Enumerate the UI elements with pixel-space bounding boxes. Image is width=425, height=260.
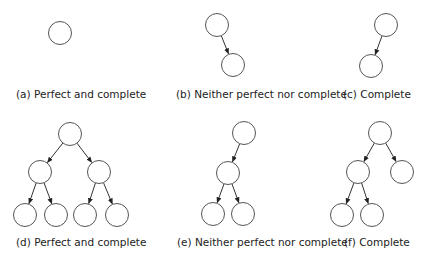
- edge-arrow: [364, 143, 374, 162]
- tree-node: [360, 55, 383, 78]
- tree-node: [74, 204, 97, 227]
- edge-arrow: [103, 183, 112, 204]
- figure-caption: (e) Neither perfect nor complete: [177, 236, 348, 248]
- tree-node: [29, 161, 52, 184]
- tree-node: [217, 162, 240, 185]
- tree-node: [49, 22, 72, 45]
- tree-node: [232, 203, 255, 226]
- edge-arrow: [77, 143, 92, 162]
- tree-node: [14, 204, 37, 227]
- edge-arrow: [44, 183, 52, 204]
- tree-diagrams: (a) Perfect and complete(b) Neither perf…: [0, 0, 425, 260]
- edge-arrow: [232, 184, 239, 203]
- tree-node: [59, 123, 82, 146]
- tree-node: [347, 161, 370, 184]
- edge-arrow: [362, 183, 369, 204]
- figure-caption: (a) Perfect and complete: [16, 88, 146, 100]
- edge-arrow: [386, 143, 396, 162]
- tree-node: [88, 161, 111, 184]
- tree-figure-b: (b) Neither perfect nor complete: [176, 14, 347, 101]
- tree-node: [222, 54, 245, 77]
- tree-node: [361, 204, 384, 227]
- tree-node: [106, 204, 129, 227]
- tree-node: [331, 204, 354, 227]
- figure-caption: (b) Neither perfect nor complete: [176, 88, 347, 100]
- tree-node: [375, 14, 398, 37]
- figure-caption: (c) Complete: [343, 88, 411, 100]
- tree-node: [233, 122, 256, 145]
- edge-arrow: [232, 144, 239, 162]
- edge-arrow: [346, 183, 354, 204]
- edge-arrow: [217, 184, 224, 203]
- edge-arrow: [89, 183, 96, 204]
- tree-figure-d: (d) Perfect and complete: [14, 123, 147, 249]
- edge-arrow: [47, 143, 62, 163]
- tree-node: [369, 122, 392, 145]
- tree-figure-f: (f) Complete: [331, 122, 414, 249]
- tree-figure-e: (e) Neither perfect nor complete: [177, 122, 348, 249]
- edge-arrow: [29, 183, 36, 204]
- tree-figure-c: (c) Complete: [343, 14, 411, 101]
- figure-caption: (f) Complete: [344, 236, 410, 248]
- figure-caption: (d) Perfect and complete: [16, 236, 146, 248]
- edge-arrow: [221, 36, 228, 54]
- tree-figure-a: (a) Perfect and complete: [16, 22, 146, 101]
- tree-node: [206, 14, 229, 37]
- tree-node: [202, 203, 225, 226]
- edge-arrow: [375, 36, 382, 55]
- tree-node: [45, 204, 68, 227]
- tree-node: [391, 161, 414, 184]
